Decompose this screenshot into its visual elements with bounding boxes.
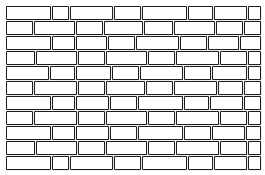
brick bbox=[7, 112, 33, 125]
brick-row bbox=[7, 82, 261, 95]
brick bbox=[77, 97, 109, 110]
brick bbox=[249, 112, 261, 125]
brick bbox=[185, 67, 211, 80]
brick bbox=[79, 82, 105, 95]
brick bbox=[249, 157, 261, 170]
brick bbox=[247, 127, 261, 140]
brick bbox=[35, 22, 75, 35]
brick bbox=[143, 7, 187, 20]
brick bbox=[221, 52, 247, 65]
brick-row bbox=[7, 67, 261, 80]
brick bbox=[175, 22, 215, 35]
brick bbox=[177, 112, 219, 125]
brick bbox=[7, 142, 35, 155]
brick bbox=[53, 7, 69, 20]
brick-row bbox=[7, 22, 261, 35]
brick-row bbox=[7, 112, 261, 125]
brick bbox=[181, 37, 207, 50]
brick bbox=[7, 67, 49, 80]
brick bbox=[109, 37, 135, 50]
brick-row bbox=[7, 52, 261, 65]
brick bbox=[107, 82, 145, 95]
brick bbox=[149, 52, 175, 65]
brick bbox=[115, 7, 141, 20]
brick bbox=[7, 52, 35, 65]
brick bbox=[7, 127, 51, 140]
brick bbox=[249, 7, 261, 20]
brick bbox=[215, 157, 247, 170]
brick bbox=[79, 112, 105, 125]
brick bbox=[53, 127, 75, 140]
brick bbox=[189, 157, 213, 170]
brick bbox=[149, 142, 175, 155]
brick bbox=[37, 52, 77, 65]
brick bbox=[51, 67, 75, 80]
brick-row bbox=[7, 97, 261, 110]
brick bbox=[147, 82, 173, 95]
brick bbox=[113, 67, 139, 80]
brick bbox=[139, 127, 183, 140]
brick bbox=[245, 97, 261, 110]
brick bbox=[105, 22, 143, 35]
brick bbox=[217, 22, 243, 35]
brick bbox=[71, 7, 113, 20]
brick bbox=[185, 127, 211, 140]
brick bbox=[7, 7, 51, 20]
brick bbox=[37, 142, 77, 155]
brick-row bbox=[7, 127, 261, 140]
brick bbox=[7, 37, 51, 50]
brick bbox=[245, 22, 261, 35]
brick bbox=[7, 97, 51, 110]
brick bbox=[221, 112, 247, 125]
brick bbox=[177, 142, 219, 155]
brick bbox=[175, 82, 217, 95]
brick bbox=[53, 37, 75, 50]
brick-layer bbox=[7, 7, 261, 170]
brick bbox=[209, 37, 239, 50]
brick bbox=[115, 157, 141, 170]
brick bbox=[79, 142, 105, 155]
brick bbox=[53, 157, 69, 170]
brick bbox=[53, 97, 75, 110]
brick bbox=[143, 157, 187, 170]
brick bbox=[185, 97, 209, 110]
brick bbox=[211, 97, 243, 110]
brick-row bbox=[7, 37, 261, 50]
brick bbox=[139, 97, 183, 110]
brick bbox=[71, 157, 113, 170]
brick bbox=[249, 67, 261, 80]
brick bbox=[189, 7, 213, 20]
brick bbox=[35, 112, 77, 125]
brick-row bbox=[7, 7, 261, 20]
brick bbox=[77, 67, 111, 80]
brick bbox=[249, 142, 261, 155]
brick bbox=[7, 157, 51, 170]
brick bbox=[111, 97, 137, 110]
brick bbox=[111, 127, 137, 140]
brick bbox=[213, 67, 247, 80]
brick-row bbox=[7, 142, 261, 155]
brick-wall-canvas bbox=[0, 0, 265, 175]
brick bbox=[107, 52, 147, 65]
brick bbox=[141, 67, 183, 80]
brick bbox=[241, 37, 261, 50]
brick bbox=[145, 22, 173, 35]
brick bbox=[221, 142, 247, 155]
brick bbox=[107, 142, 147, 155]
brick bbox=[77, 37, 107, 50]
brick bbox=[215, 7, 247, 20]
brick bbox=[7, 82, 33, 95]
brick-wall-figure bbox=[0, 0, 265, 175]
brick-row bbox=[7, 157, 261, 170]
brick bbox=[137, 37, 179, 50]
brick bbox=[77, 22, 103, 35]
brick bbox=[213, 127, 245, 140]
brick bbox=[219, 82, 243, 95]
brick bbox=[79, 52, 105, 65]
brick bbox=[177, 52, 219, 65]
brick bbox=[107, 112, 147, 125]
brick bbox=[7, 22, 33, 35]
brick bbox=[249, 52, 261, 65]
brick bbox=[149, 112, 175, 125]
brick bbox=[245, 82, 261, 95]
